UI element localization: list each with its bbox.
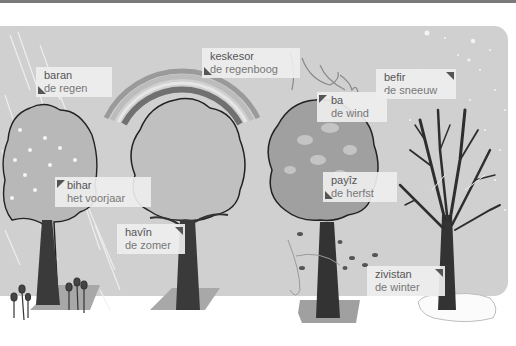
label-pointer-icon [435, 269, 443, 277]
label-pointer-icon [319, 95, 327, 103]
label-snow-kurdish: befir [384, 71, 450, 84]
label-spring-kurdish: bihar [67, 179, 145, 192]
label-rainbow-kurdish: keskesor [210, 50, 294, 63]
label-winter-kurdish: zivistan [375, 268, 439, 281]
label-pointer-icon [325, 191, 333, 199]
label-pointer-icon [38, 86, 46, 94]
label-summer-kurdish: havîn [125, 226, 179, 239]
label-snow: befir de sneeuw [376, 69, 456, 99]
label-rain: baran de regen [36, 67, 112, 97]
label-autumn: payîz de herfst [323, 172, 397, 202]
label-rain-kurdish: baran [44, 69, 106, 82]
label-rain-dutch: de regen [44, 82, 106, 95]
label-wind: ba de wind [317, 92, 387, 122]
label-winter-dutch: de winter [375, 281, 439, 294]
label-pointer-icon [57, 180, 65, 188]
label-winter: zivistan de winter [367, 266, 445, 296]
label-pointer-icon [204, 67, 212, 75]
label-autumn-dutch: de herfst [331, 187, 391, 200]
label-autumn-kurdish: payîz [331, 174, 391, 187]
label-pointer-icon [446, 72, 454, 80]
label-rainbow: keskesor de regenboog [202, 48, 300, 78]
label-pointer-icon [175, 227, 183, 235]
label-summer-dutch: de zomer [125, 239, 179, 252]
label-spring: bihar het voorjaar [55, 177, 151, 207]
label-wind-kurdish: ba [331, 94, 381, 107]
label-snow-dutch: de sneeuw [384, 84, 450, 97]
label-rainbow-dutch: de regenboog [210, 63, 294, 76]
label-spring-dutch: het voorjaar [67, 192, 145, 205]
autumn-tree-icon [268, 99, 378, 318]
label-summer: havîn de zomer [117, 224, 185, 254]
wind-icon [290, 52, 358, 92]
label-wind-dutch: de wind [331, 107, 381, 120]
falling-leaves-icon [297, 232, 378, 270]
winter-snow-patch [418, 293, 496, 321]
